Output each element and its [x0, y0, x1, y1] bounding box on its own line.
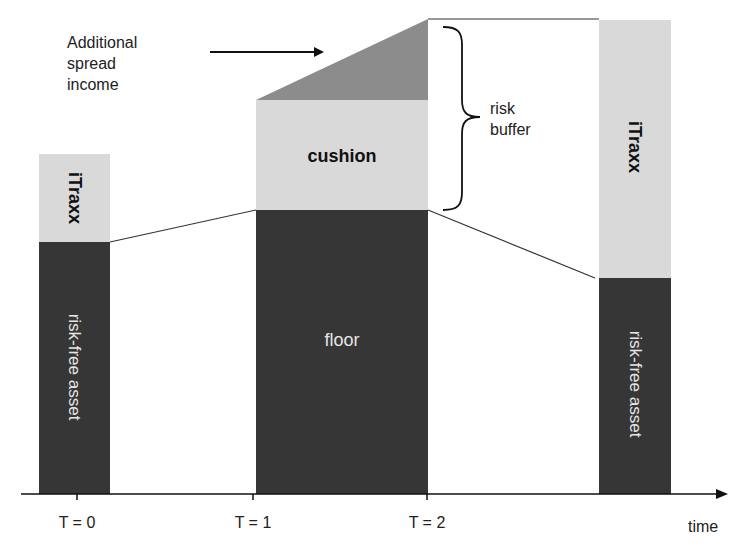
tick-label-t2: T = 2	[397, 514, 457, 532]
time-axis-label: time	[688, 518, 718, 536]
cppi-diagram: Additional spread income risk buffer iTr…	[0, 0, 747, 556]
itraxx-label-t0: iTraxx	[64, 162, 86, 235]
tick-label-t1: T = 1	[223, 514, 283, 532]
connector-line-t0-t1	[110, 210, 256, 242]
time-axis-arrow-icon	[716, 489, 728, 499]
floor-label: floor	[256, 330, 428, 351]
annotation-line: buffer	[490, 119, 531, 140]
risk-free-label-t3: risk-free asset	[624, 309, 646, 459]
itraxx-label-t3: iTraxx	[624, 111, 646, 184]
risk-buffer-brace-icon	[443, 27, 480, 210]
annotation-line: income	[67, 74, 137, 95]
annotation-line: risk	[490, 98, 531, 119]
connector-line-t2-t3	[428, 210, 595, 278]
spread-income-wedge	[256, 19, 428, 100]
annotation-line: spread	[67, 53, 137, 74]
tick-label-t0: T = 0	[47, 514, 107, 532]
floor-segment	[256, 210, 428, 494]
risk-free-label-t0: risk-free asset	[63, 292, 85, 442]
cushion-label: cushion	[256, 146, 428, 167]
spread-income-annotation: Additional spread income	[67, 32, 137, 95]
annotation-line: Additional	[67, 32, 137, 53]
risk-buffer-annotation: risk buffer	[490, 98, 531, 140]
bar-t1-t2	[256, 19, 428, 494]
